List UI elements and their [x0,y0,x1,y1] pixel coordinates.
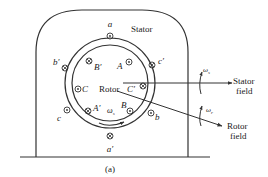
rotor-label: Rotor [99,84,120,94]
omega-center-label: ωs [107,106,115,116]
conductor-C-prime [140,83,146,89]
conductor-c [64,107,70,113]
induction-machine-diagram: a c′ b a′ c b′ A C′ B A′ C [0,0,268,177]
stator-field-label: Stator field [233,76,257,96]
label-a: a [108,19,113,29]
stator-label: Stator [131,24,153,34]
conductor-B [127,108,133,114]
label-c: c [57,113,61,123]
rotor-field-label: Rotor field [227,121,250,141]
figure-caption: (a) [105,164,115,174]
conductor-B-prime [86,58,92,64]
label-B: B [121,100,127,110]
label-C: C [82,84,89,94]
conductor-C [75,86,81,92]
omega-r-arrow [200,106,202,126]
omega-s-label: ωs [203,66,210,75]
label-B-prime: B′ [94,62,102,72]
label-A: A [116,61,123,71]
label-a-prime: a′ [107,144,115,154]
label-C-prime: C′ [127,84,136,94]
conductor-b [148,110,154,116]
conductor-A-prime [85,108,91,114]
label-b-prime: b′ [53,57,61,67]
conductor-A [126,59,132,65]
omega-r-label: ωr [206,106,213,115]
label-b: b [155,112,160,122]
rotor-rotation-arrow [99,122,124,125]
conductor-a-prime [107,133,113,139]
label-c-prime: c′ [158,56,165,66]
label-A-prime: A′ [92,103,101,113]
